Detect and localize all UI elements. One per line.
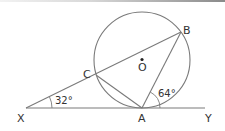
geometry-diagram: X A Y B C O 32° 64° — [0, 0, 225, 131]
label-a: A — [138, 112, 146, 125]
angle-label-a: 64° — [158, 88, 176, 99]
line-ac — [96, 75, 142, 108]
label-b: B — [183, 24, 191, 37]
angle-label-x: 32° — [55, 95, 73, 106]
label-c: C — [83, 68, 91, 81]
label-y: Y — [204, 112, 212, 125]
label-o: O — [138, 61, 147, 74]
angle-arc-x — [49, 97, 52, 108]
label-x: X — [17, 112, 25, 125]
